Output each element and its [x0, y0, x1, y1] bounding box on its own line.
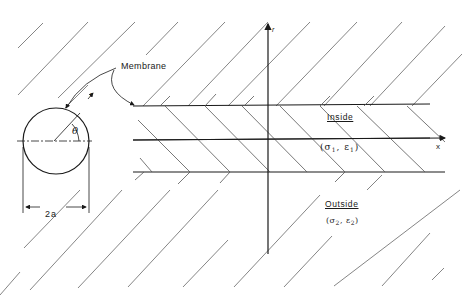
diagram-svg	[0, 0, 462, 300]
outside-label: Outside	[325, 200, 359, 209]
membrane-leaders	[66, 68, 134, 108]
x-axis-arrow	[133, 138, 445, 140]
r-axis-label: r	[272, 26, 274, 33]
outside-hatching-bottom	[0, 175, 460, 295]
membrane-diagram: Membrane Inside Outside (σ1, ε1) (σ2, ε2…	[0, 0, 462, 300]
diameter-label: 2a	[45, 210, 57, 219]
membrane-label: Membrane	[121, 62, 166, 71]
radial-direction-label: r	[90, 91, 92, 98]
inside-properties: (σ1, ε1)	[320, 143, 359, 153]
outside-properties: (σ2, ε2)	[326, 217, 359, 226]
x-axis-label: x	[436, 143, 440, 151]
inside-label: Inside	[327, 113, 353, 122]
theta-label: θ	[72, 126, 78, 136]
leader-to-circle	[66, 68, 116, 108]
inner-upper-boundary	[133, 104, 430, 106]
leader-to-layer	[112, 70, 135, 105]
cross-section	[17, 93, 93, 213]
outside-hatching-top	[18, 22, 462, 108]
